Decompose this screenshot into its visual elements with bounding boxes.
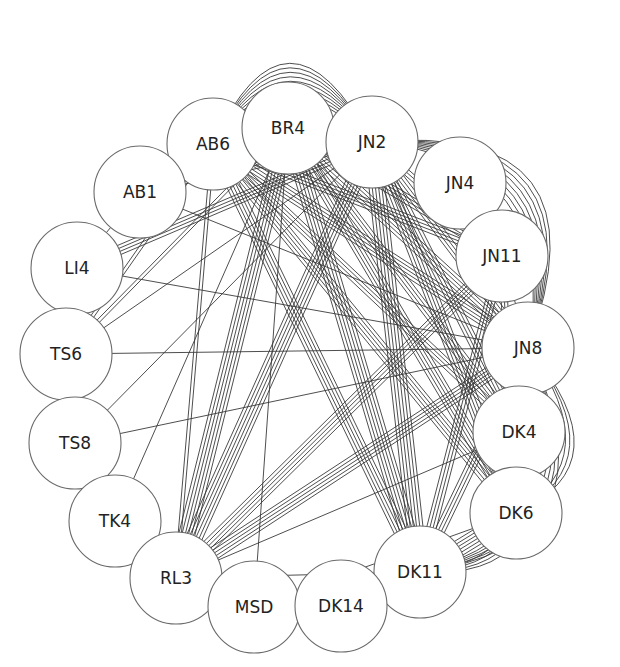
node-circle[interactable] bbox=[242, 82, 334, 174]
node-circle[interactable] bbox=[470, 467, 562, 559]
node-br4[interactable]: BR4 bbox=[242, 82, 334, 174]
node-circle[interactable] bbox=[208, 561, 300, 653]
node-jn2[interactable]: JN2 bbox=[326, 96, 418, 188]
node-li4[interactable]: LI4 bbox=[31, 222, 123, 314]
node-circle[interactable] bbox=[20, 308, 112, 400]
node-circle[interactable] bbox=[374, 526, 466, 618]
node-circle[interactable] bbox=[473, 386, 565, 478]
node-ab1[interactable]: AB1 bbox=[94, 146, 186, 238]
node-circle[interactable] bbox=[456, 210, 548, 302]
node-circle[interactable] bbox=[31, 222, 123, 314]
node-circle[interactable] bbox=[94, 146, 186, 238]
node-msd[interactable]: MSD bbox=[208, 561, 300, 653]
node-ts6[interactable]: TS6 bbox=[20, 308, 112, 400]
edge-RL3-JN2 bbox=[172, 140, 368, 576]
node-dk14[interactable]: DK14 bbox=[295, 560, 387, 652]
network-diagram: AB6BR4JN2JN4AB1JN11LI4JN8TS6TS8DK4TK4DK6… bbox=[0, 0, 620, 667]
node-dk4[interactable]: DK4 bbox=[473, 386, 565, 478]
edge-DK11-JN2 bbox=[370, 142, 418, 572]
node-circle[interactable] bbox=[326, 96, 418, 188]
node-circle[interactable] bbox=[295, 560, 387, 652]
network-graph-svg: AB6BR4JN2JN4AB1JN11LI4JN8TS6TS8DK4TK4DK6… bbox=[0, 0, 620, 667]
node-jn8[interactable]: JN8 bbox=[482, 302, 574, 394]
edge-RL3-JN11 bbox=[178, 258, 504, 580]
nodes-layer: AB6BR4JN2JN4AB1JN11LI4JN8TS6TS8DK4TK4DK6… bbox=[20, 82, 574, 653]
edge-DK11-JN2 bbox=[377, 141, 425, 571]
node-dk6[interactable]: DK6 bbox=[470, 467, 562, 559]
node-dk11[interactable]: DK11 bbox=[374, 526, 466, 618]
node-jn11[interactable]: JN11 bbox=[456, 210, 548, 302]
node-circle[interactable] bbox=[482, 302, 574, 394]
